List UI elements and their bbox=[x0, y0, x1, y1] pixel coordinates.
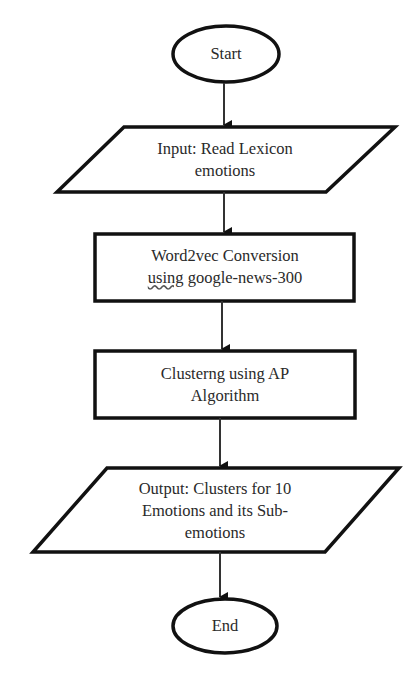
output-label: Output: Clusters for 10 Emotions and its… bbox=[90, 472, 340, 550]
start-label: Start bbox=[173, 30, 279, 78]
clustering-label: Clusterng using AP Algorithm bbox=[100, 355, 350, 415]
input-text-line1: Input: Read Lexicon bbox=[157, 138, 293, 160]
word2vec-label: Word2vec Conversion using google-news-30… bbox=[100, 237, 350, 297]
flowchart-canvas bbox=[0, 0, 420, 680]
output-text-line3: emotions bbox=[185, 522, 246, 544]
input-text-line2: emotions bbox=[195, 160, 256, 182]
end-label: End bbox=[173, 602, 277, 650]
word2vec-text-underlined-word: using bbox=[148, 268, 184, 287]
clustering-text-line2: Algorithm bbox=[191, 385, 260, 407]
start-text: Start bbox=[210, 43, 241, 65]
end-text: End bbox=[212, 615, 239, 637]
input-label: Input: Read Lexicon emotions bbox=[110, 130, 340, 190]
clustering-text-line1: Clusterng using AP bbox=[161, 363, 289, 385]
output-text-line2: Emotions and its Sub- bbox=[142, 500, 288, 522]
output-text-line1: Output: Clusters for 10 bbox=[139, 478, 292, 500]
word2vec-text-line2-rest: google-news-300 bbox=[184, 268, 303, 287]
word2vec-text-line1: Word2vec Conversion bbox=[151, 245, 299, 267]
word2vec-text-line2: using google-news-300 bbox=[148, 267, 302, 289]
